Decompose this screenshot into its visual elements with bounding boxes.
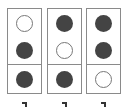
cell-3-2 bbox=[87, 37, 120, 65]
column-3 bbox=[86, 8, 121, 94]
hook-glyph-icon bbox=[101, 102, 106, 107]
empty-circle-icon bbox=[95, 71, 112, 88]
cell-2-3 bbox=[48, 65, 81, 93]
column-2-label bbox=[47, 99, 82, 109]
empty-circle-icon bbox=[56, 42, 73, 59]
column-2 bbox=[47, 8, 82, 94]
filled-circle-icon bbox=[56, 71, 73, 88]
hook-glyph-icon bbox=[22, 102, 27, 107]
cell-1-2 bbox=[8, 37, 41, 65]
cell-2-1 bbox=[48, 9, 81, 37]
hook-glyph-icon bbox=[62, 102, 67, 107]
cell-1-1 bbox=[8, 9, 41, 37]
filled-circle-icon bbox=[56, 15, 73, 32]
filled-circle-icon bbox=[16, 71, 33, 88]
column-1 bbox=[7, 8, 42, 94]
cell-1-3 bbox=[8, 65, 41, 93]
empty-circle-icon bbox=[16, 15, 33, 32]
cell-3-1 bbox=[87, 9, 120, 37]
filled-circle-icon bbox=[95, 15, 112, 32]
filled-circle-icon bbox=[95, 42, 112, 59]
cell-2-2 bbox=[48, 37, 81, 65]
filled-circle-icon bbox=[16, 42, 33, 59]
cell-3-3 bbox=[87, 65, 120, 93]
column-1-label bbox=[7, 99, 42, 109]
column-3-label bbox=[86, 99, 121, 109]
